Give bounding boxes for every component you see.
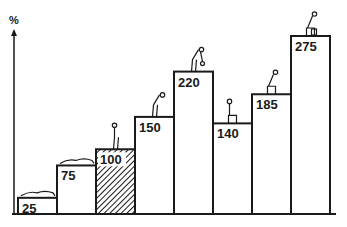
posture-figure-icon <box>227 99 236 123</box>
bar: 275 <box>291 36 330 214</box>
bar-value-label: 140 <box>217 126 239 141</box>
bar: 100 <box>96 149 135 214</box>
posture-figure-icon <box>307 12 317 36</box>
y-axis-label: % <box>9 14 19 26</box>
posture-figure-icon <box>153 93 165 117</box>
bar-value-label: 220 <box>178 75 200 90</box>
bar-value-label: 100 <box>100 152 122 167</box>
bar-value-label: 185 <box>256 97 278 112</box>
bars: 2575100150220140185275 <box>18 36 330 216</box>
bar: 150 <box>135 117 174 214</box>
y-axis: % <box>9 14 19 214</box>
bar-chart: % 2575100150220140185275 <box>0 0 347 227</box>
posture-figure-icon <box>60 159 94 164</box>
posture-figure-icon <box>112 123 118 149</box>
bar-value-label: 75 <box>61 168 75 183</box>
bar: 185 <box>252 94 291 214</box>
bar-value-label: 150 <box>139 120 161 135</box>
bar: 75 <box>57 165 96 214</box>
bar-value-label: 275 <box>295 39 317 54</box>
posture-figure-icon <box>192 47 205 71</box>
posture-figure-icon <box>268 70 278 94</box>
posture-figure-icon <box>21 191 55 196</box>
bar: 220 <box>174 72 213 214</box>
bar: 140 <box>213 123 252 214</box>
